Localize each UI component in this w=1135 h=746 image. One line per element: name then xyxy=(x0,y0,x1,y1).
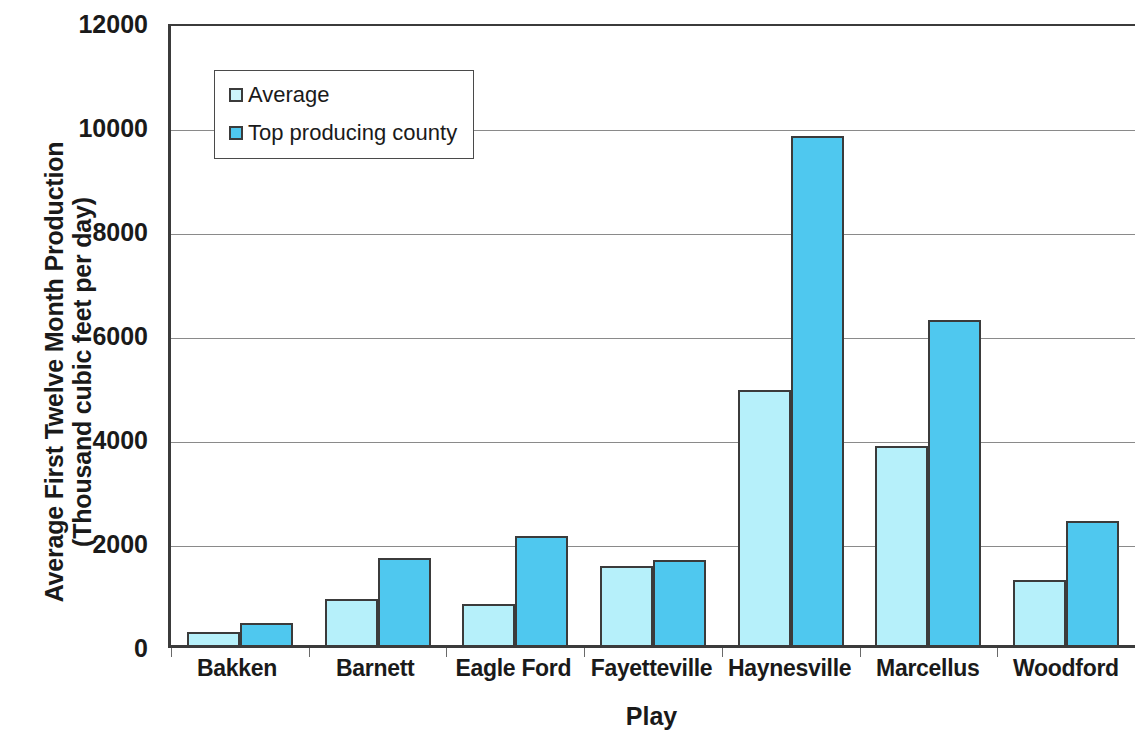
bar[interactable] xyxy=(378,558,431,648)
legend-item[interactable]: Top producing county xyxy=(229,120,457,146)
legend-label: Top producing county xyxy=(248,120,457,146)
bar[interactable] xyxy=(1066,521,1119,648)
y-axis-tick-label: 6000 xyxy=(92,322,148,351)
x-axis-line xyxy=(171,645,1135,648)
x-axis-category-label: Woodford xyxy=(997,655,1135,691)
bar[interactable] xyxy=(928,320,981,648)
x-axis-category-label: Fayetteville xyxy=(582,655,720,691)
legend-swatch-icon xyxy=(229,88,243,102)
x-axis-category-label: Haynesville xyxy=(721,655,859,691)
y-axis-tick-labels: 020004000600080001000012000 xyxy=(0,0,160,746)
bar[interactable] xyxy=(600,566,653,648)
bar-group xyxy=(860,26,998,648)
bar[interactable] xyxy=(653,560,706,648)
legend-swatch-icon xyxy=(229,126,243,140)
legend: AverageTop producing county xyxy=(214,70,474,159)
bar-chart: Average First Twelve Month Production (T… xyxy=(0,0,1135,746)
bar[interactable] xyxy=(1013,580,1066,648)
bar[interactable] xyxy=(462,604,515,648)
y-axis-tick-label: 0 xyxy=(134,634,148,663)
bar[interactable] xyxy=(875,446,928,648)
x-axis-title: Play xyxy=(168,702,1135,731)
bar-group xyxy=(584,26,722,648)
x-axis-category-label: Bakken xyxy=(168,655,306,691)
bar[interactable] xyxy=(738,390,791,648)
bar-group xyxy=(997,26,1135,648)
y-axis-tick-label: 10000 xyxy=(78,114,148,143)
bar[interactable] xyxy=(515,536,568,648)
y-axis-tick-label: 2000 xyxy=(92,530,148,559)
bar-group xyxy=(722,26,860,648)
legend-item[interactable]: Average xyxy=(229,82,457,108)
y-axis-tick-label: 8000 xyxy=(92,218,148,247)
y-axis-tick-label: 12000 xyxy=(78,10,148,39)
x-axis-category-label: Eagle Ford xyxy=(444,655,582,691)
x-axis-category-label: Marcellus xyxy=(859,655,997,691)
legend-label: Average xyxy=(248,82,330,108)
y-axis-tick-label: 4000 xyxy=(92,426,148,455)
bar[interactable] xyxy=(325,599,378,648)
x-axis-category-label: Barnett xyxy=(306,655,444,691)
bar[interactable] xyxy=(791,136,844,648)
x-axis-category-labels: BakkenBarnettEagle FordFayettevilleHayne… xyxy=(168,655,1135,691)
